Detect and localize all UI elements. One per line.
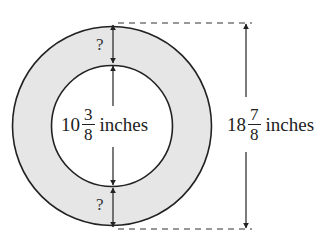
inner-diameter-fraction: 3 8 [82,106,95,143]
inner-diameter-label: 10 3 8 inches [60,106,149,143]
bottom-unknown-label: ? [96,196,104,213]
outer-diameter-fraction: 7 8 [248,106,261,143]
inner-diameter-denominator: 8 [82,125,95,143]
outer-diameter-numerator: 7 [248,106,261,125]
top-unknown-label: ? [96,36,104,53]
inner-diameter-whole: 10 [61,115,80,134]
outer-diameter-denominator: 8 [248,125,261,143]
outer-diameter-whole: 18 [227,115,246,134]
outer-diameter-label: 18 7 8 inches [226,106,315,143]
inner-diameter-unit: inches [100,115,149,134]
inner-diameter-numerator: 3 [82,106,95,125]
outer-diameter-unit: inches [266,115,315,134]
